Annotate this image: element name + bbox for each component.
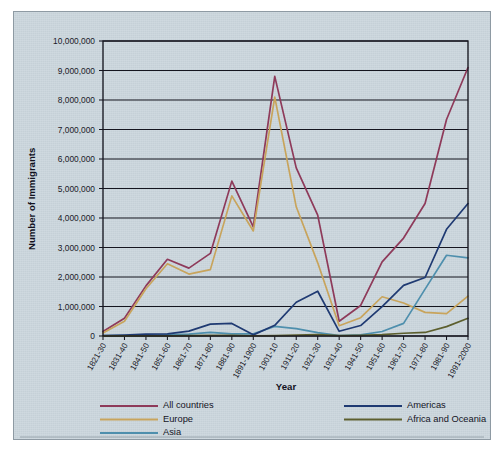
x-tick-label: 1951-60 [365, 341, 388, 372]
y-tick-label: 8,000,000 [58, 95, 96, 105]
y-tick-label: 3,000,000 [58, 243, 96, 253]
chart-figure: 01,000,0002,000,0003,000,0004,000,0005,0… [0, 0, 504, 454]
series-line [103, 97, 468, 333]
chart-plot-area: 01,000,0002,000,0003,000,0004,000,0005,0… [0, 0, 504, 454]
x-tick-label: 1831-40 [107, 341, 130, 372]
x-tick-label: 1871-80 [193, 341, 216, 372]
series-line [103, 255, 468, 335]
y-axis-tick-labels: 01,000,0002,000,0003,000,0004,000,0005,0… [53, 36, 95, 341]
x-tick-label: 1931-40 [322, 341, 345, 372]
data-series [103, 68, 468, 336]
x-tick-label: 1921-30 [300, 341, 323, 372]
chart-legend: All countriesEuropeAsiaAmericasAfrica an… [100, 400, 487, 437]
y-axis-title: Number of Immigrants [26, 148, 37, 250]
x-axis-title: Year [276, 381, 297, 392]
y-tick-label: 10,000,000 [53, 36, 95, 46]
y-tick-label: 9,000,000 [58, 66, 96, 76]
series-line [103, 68, 468, 332]
gridlines [99, 41, 468, 336]
legend-label: Americas [407, 400, 446, 410]
legend-label: Africa and Oceania [407, 414, 487, 424]
x-tick-label: 1911-20 [279, 341, 302, 371]
legend-label: All countries [163, 400, 214, 410]
x-tick-label: 1901-10 [257, 341, 280, 372]
legend-label: Asia [163, 427, 182, 437]
x-tick-label: 1841-50 [128, 341, 151, 372]
x-tick-label: 1981-90 [429, 341, 452, 372]
y-tick-label: 5,000,000 [58, 184, 96, 194]
x-axis-tick-labels: 1821-301831-401841-501851-601861-701871-… [85, 341, 473, 380]
legend-label: Europe [163, 414, 193, 424]
y-tick-label: 6,000,000 [58, 154, 96, 164]
x-tick-label: 1941-50 [343, 341, 366, 372]
y-tick-label: 7,000,000 [58, 125, 96, 135]
y-tick-label: 0 [90, 331, 95, 341]
y-tick-label: 4,000,000 [58, 213, 96, 223]
x-tick-label: 1961-70 [386, 341, 409, 372]
x-tick-label: 1851-60 [150, 341, 173, 372]
x-tick-label: 1971-80 [407, 341, 430, 372]
x-tick-label: 1861-70 [171, 341, 194, 372]
x-tick-label: 1881-90 [214, 341, 237, 372]
x-tick-label: 1821-30 [85, 341, 108, 372]
y-tick-label: 1,000,000 [58, 302, 96, 312]
y-tick-label: 2,000,000 [58, 272, 96, 282]
